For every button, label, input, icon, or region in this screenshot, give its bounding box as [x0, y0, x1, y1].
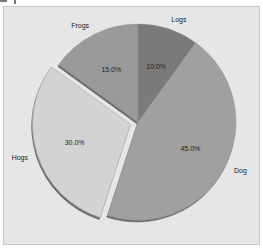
pct-label-frogs: 15.0%: [101, 66, 121, 73]
pct-label-logs: 10.0%: [146, 63, 166, 70]
category-label-logs: Logs: [171, 16, 187, 24]
category-label-dogs: Dog: [234, 167, 247, 175]
category-label-hogs: Hogs: [12, 154, 29, 162]
pct-label-dogs: 45.0%: [180, 145, 200, 152]
pie-chart: 10.0%Logs45.0%Dog30.0%Hogs15.0%Frogs: [0, 0, 263, 249]
category-label-frogs: Frogs: [71, 22, 89, 30]
pct-label-hogs: 30.0%: [65, 139, 85, 146]
